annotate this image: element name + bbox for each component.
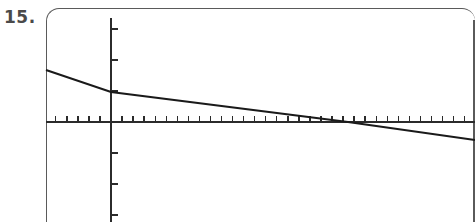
plot-surface [0, 0, 475, 222]
y-axis [111, 18, 118, 222]
calculator-graph-figure: 15. [0, 0, 475, 222]
